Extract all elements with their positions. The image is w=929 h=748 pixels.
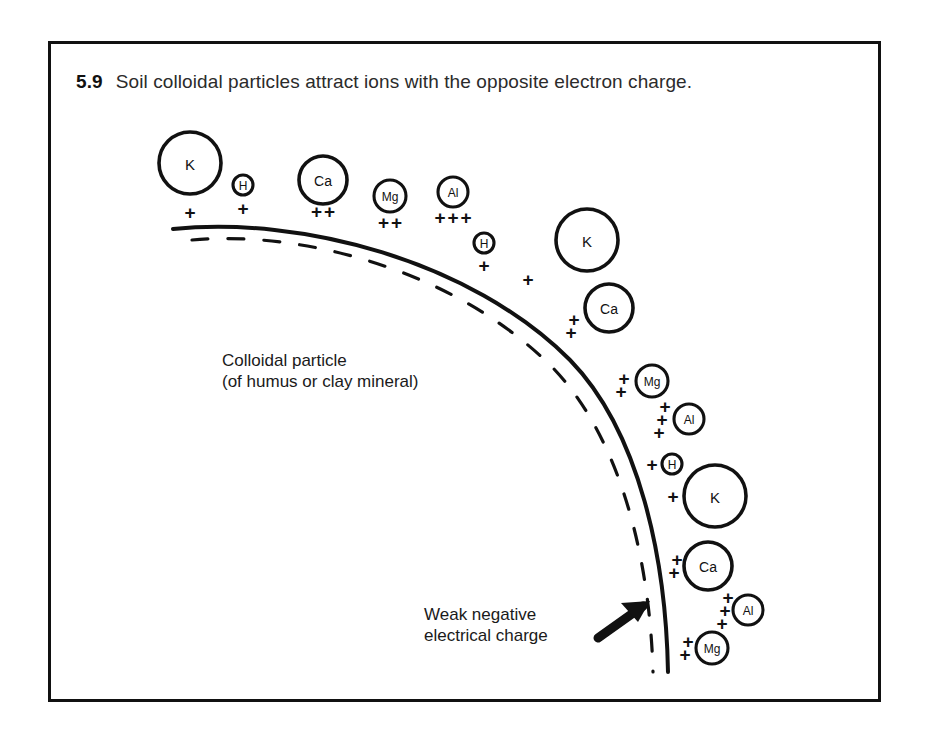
charge-plus: + (311, 201, 322, 222)
ion-al: Al+++ (653, 396, 704, 443)
ion-k: K+ (522, 209, 618, 290)
charge-plus: + (324, 201, 335, 222)
colloidal-particle-line2: (of humus or clay mineral) (222, 371, 419, 392)
charge-plus: + (184, 202, 195, 223)
ion-al: Al+++ (434, 177, 471, 228)
charge-plus: + (716, 613, 727, 634)
ion-symbol: Al (448, 186, 459, 200)
ion-h: H+ (474, 233, 494, 276)
charge-plus: + (615, 381, 626, 402)
ion-symbol: Al (743, 604, 754, 618)
charge-plus: + (447, 207, 458, 228)
ion-symbol: Ca (699, 559, 717, 575)
ion-mg: Mg++ (679, 631, 728, 665)
ion-ca: Ca++ (565, 284, 633, 343)
ion-al: Al+++ (716, 587, 763, 634)
charge-plus: + (653, 422, 664, 443)
charge-plus: + (460, 207, 471, 228)
ion-h: H+ (646, 454, 682, 475)
charge-plus: + (478, 255, 489, 276)
ion-symbol: K (582, 233, 592, 250)
ion-symbol: H (480, 237, 489, 251)
colloidal-particle-line1: Colloidal particle (222, 350, 419, 371)
ion-h: H+ (233, 175, 253, 219)
charge-line1: Weak negative (424, 604, 548, 625)
ion-ca: Ca++ (299, 156, 347, 222)
ion-symbol: Mg (644, 375, 661, 389)
ion-symbol: Ca (600, 301, 618, 317)
ion-k: K+ (159, 132, 221, 223)
charge-plus: + (434, 207, 445, 228)
ion-ca: Ca++ (668, 542, 732, 590)
charge-arrow (598, 601, 650, 638)
ion-mg: Mg++ (374, 180, 406, 233)
weak-negative-charge-label: Weak negative electrical charge (424, 604, 548, 646)
ion-symbol: K (710, 489, 720, 506)
ion-symbol: Mg (704, 642, 721, 656)
charge-plus: + (667, 486, 678, 507)
charge-plus: + (522, 269, 533, 290)
charge-plus: + (237, 198, 248, 219)
charge-plus: + (668, 562, 679, 583)
ion-symbol: Al (684, 413, 695, 427)
charge-line2: electrical charge (424, 625, 548, 646)
figure-root: 5.9Soil colloidal particles attract ions… (0, 0, 929, 748)
ion-symbol: K (185, 156, 195, 173)
ion-k: K+ (667, 465, 746, 527)
charge-plus: + (378, 212, 389, 233)
ion-layer: K+H+Ca++Mg++Al+++H+K+Ca++Mg++Al+++H+K+Ca… (159, 132, 763, 665)
charge-plus: + (565, 322, 576, 343)
ion-symbol: Ca (314, 173, 332, 189)
charge-plus: + (679, 644, 690, 665)
colloidal-particle-label: Colloidal particle (of humus or clay min… (222, 350, 419, 392)
charge-plus: + (391, 212, 402, 233)
ion-symbol: Mg (382, 190, 399, 204)
charge-plus: + (646, 454, 657, 475)
ion-symbol: H (668, 458, 677, 472)
ion-symbol: H (239, 179, 248, 193)
